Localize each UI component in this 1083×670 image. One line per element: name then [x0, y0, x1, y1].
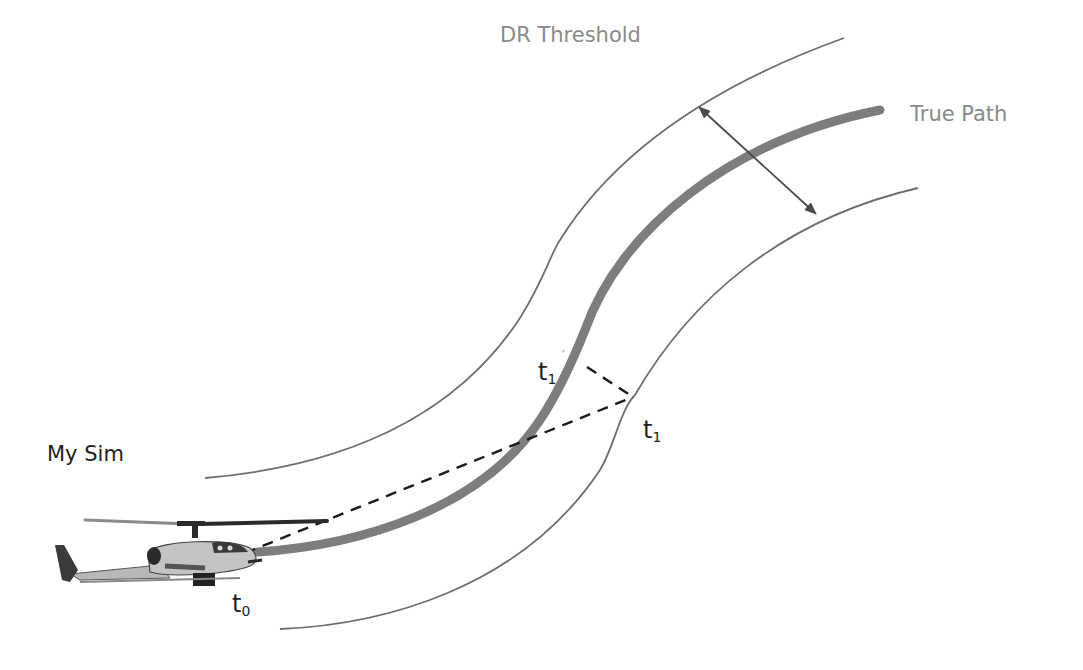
threshold-width-double-arrow-icon — [700, 108, 815, 213]
dr-threshold-upper-line — [205, 38, 844, 478]
t1-prime-mark: ′ — [562, 348, 565, 362]
t0-label-subscript: 0 — [241, 603, 250, 619]
true-path-line — [258, 110, 880, 552]
t1-label: t1 — [643, 418, 661, 444]
t1-prime-label-base: t — [538, 358, 547, 386]
t1-label-subscript: 1 — [652, 429, 661, 445]
dead-reckoning-dashed-line — [245, 397, 633, 553]
dr-threshold-lower-line — [280, 188, 918, 629]
t1-prime-label-subscript: 1 — [547, 371, 556, 387]
true-path-label: True Path — [910, 104, 1007, 125]
error-dashed-line — [587, 367, 633, 397]
t1-prime-label: t1 — [538, 360, 556, 386]
t1-label-base: t — [643, 416, 652, 444]
t0-label: t0 — [232, 592, 250, 618]
t0-label-base: t — [232, 590, 241, 618]
dr-threshold-label: DR Threshold — [500, 25, 641, 46]
my-sim-label: My Sim — [47, 444, 124, 465]
dead-reckoning-diagram — [0, 0, 1083, 670]
